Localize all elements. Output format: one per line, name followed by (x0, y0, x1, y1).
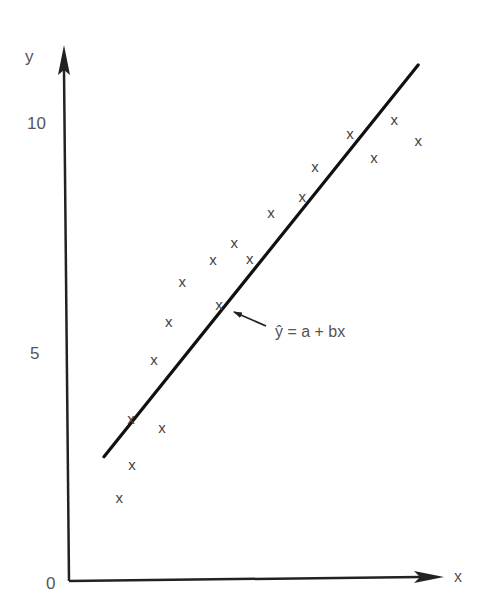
x-axis (69, 571, 444, 583)
data-point-x-marker: x (178, 273, 186, 290)
data-point-x-marker: x (414, 132, 422, 149)
data-point-x-marker: x (390, 111, 398, 128)
data-point-x-marker: x (246, 250, 254, 267)
regression-equation-label: ŷ = a + bx (275, 323, 345, 340)
data-point-x-marker: x (209, 251, 217, 268)
y-tick-label-5: 5 (30, 344, 39, 363)
data-point-x-marker: x (311, 158, 319, 175)
data-point-x-marker: x (298, 188, 306, 205)
scatter-chart: y x 10 5 0 ŷ = a + bx xxxxxxxxxxxxxxxxxx (0, 0, 494, 609)
data-point-x-marker: x (158, 419, 166, 436)
regression-line (104, 65, 418, 457)
y-axis (58, 45, 70, 581)
data-point-x-marker: x (150, 351, 158, 368)
data-point-x-marker: x (165, 313, 173, 330)
data-point-x-marker: x (115, 489, 123, 506)
y-tick-label-0: 0 (46, 574, 55, 593)
data-point-x-marker: x (128, 456, 136, 473)
data-point-x-marker: x (215, 296, 223, 313)
data-points: xxxxxxxxxxxxxxxxxx (115, 111, 422, 506)
data-point-x-marker: x (267, 204, 275, 221)
data-point-x-marker: x (230, 234, 238, 251)
x-axis-label: x (454, 568, 462, 585)
data-point-x-marker: x (127, 410, 135, 427)
data-point-x-marker: x (370, 149, 378, 166)
y-tick-label-10: 10 (27, 114, 46, 133)
y-axis-label: y (25, 47, 34, 66)
regression-annotation: ŷ = a + bx (234, 312, 345, 340)
data-point-x-marker: x (346, 125, 354, 142)
